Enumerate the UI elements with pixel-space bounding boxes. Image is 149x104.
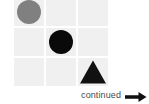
matrix-cell-r0c0[interactable] xyxy=(14,0,44,26)
matrix-cell-r2c0[interactable] xyxy=(14,58,44,86)
gray-circle xyxy=(17,0,41,24)
arrow-right-icon xyxy=(125,89,147,101)
matrix-cell-r0c1[interactable] xyxy=(46,0,76,26)
black-circle xyxy=(49,30,73,54)
matrix-cell-r2c1[interactable] xyxy=(46,58,76,86)
continued-indicator: continued xyxy=(81,89,147,101)
matrix-cell-r2c2[interactable] xyxy=(78,58,108,86)
continued-label: continued xyxy=(81,91,121,100)
shape-matrix xyxy=(14,0,108,86)
shape-matrix-figure: continued xyxy=(0,0,149,104)
matrix-cell-r1c0[interactable] xyxy=(14,28,44,56)
matrix-cell-r0c2[interactable] xyxy=(78,0,108,26)
matrix-cell-r1c1[interactable] xyxy=(46,28,76,56)
black-triangle xyxy=(80,61,106,84)
matrix-cell-r1c2[interactable] xyxy=(78,28,108,56)
